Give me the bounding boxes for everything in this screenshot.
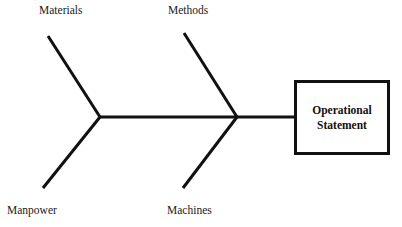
- bone-line-manpower: [43, 117, 100, 188]
- bone-label-methods: Methods: [168, 5, 208, 17]
- effect-box: Operational Statement: [294, 80, 390, 155]
- bone-line-machines: [183, 117, 237, 188]
- effect-box-label: Operational Statement: [312, 103, 371, 132]
- bone-label-materials: Materials: [39, 5, 82, 17]
- bone-line-methods: [184, 33, 237, 117]
- bone-line-materials: [48, 36, 100, 117]
- bone-label-machines: Machines: [167, 205, 212, 217]
- fishbone-diagram: Materials Methods Manpower Machines Oper…: [0, 0, 402, 227]
- bone-label-manpower: Manpower: [7, 205, 57, 217]
